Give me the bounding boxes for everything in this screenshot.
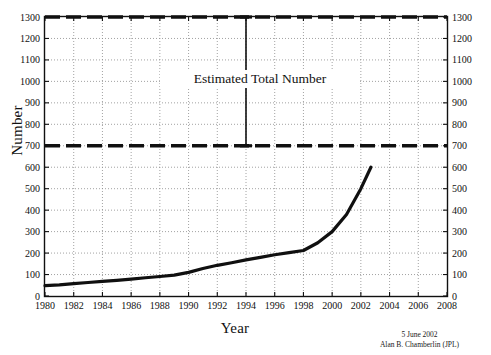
- x-tick-label: 1992: [207, 300, 227, 311]
- y-tick-label-left: 900: [25, 97, 40, 108]
- x-tick-label: 1984: [92, 300, 112, 311]
- y-tick-label-left: 200: [25, 248, 40, 259]
- x-tick-label: 1990: [179, 300, 199, 311]
- x-axis-title: Year: [190, 320, 280, 337]
- x-tick-label: 1996: [265, 300, 285, 311]
- y-tick-label-left: 1200: [20, 33, 40, 44]
- y-tick-label-right: 1100: [452, 54, 472, 65]
- x-tick-label: 2004: [380, 300, 400, 311]
- y-tick-label-left: 800: [25, 119, 40, 130]
- y-axis-tick-labels-right: 0100200300400500600700800900100011001200…: [452, 12, 472, 302]
- y-tick-label-right: 400: [452, 205, 467, 216]
- y-tick-label-left: 700: [25, 140, 40, 151]
- x-tick-label: 1986: [121, 300, 141, 311]
- y-tick-label-right: 900: [452, 97, 467, 108]
- x-tick-label: 1980: [35, 300, 55, 311]
- x-tick-label: 1982: [64, 300, 84, 311]
- chart-plot-svg: 0100200300400500600700800900100011001200…: [0, 0, 491, 355]
- x-tick-label: 2006: [408, 300, 428, 311]
- y-tick-label-right: 300: [452, 226, 467, 237]
- series-line: [45, 167, 371, 285]
- y-tick-label-right: 1000: [452, 76, 472, 87]
- estimated-total-number-label: Estimated Total Number: [160, 70, 360, 88]
- y-tick-label-right: 100: [452, 269, 467, 280]
- y-tick-label-left: 1300: [20, 12, 40, 23]
- y-tick-label-right: 1300: [452, 12, 472, 23]
- chart-figure: 0100200300400500600700800900100011001200…: [0, 0, 491, 355]
- credit-date: 5 June 2002: [352, 330, 487, 340]
- y-tick-label-right: 200: [452, 248, 467, 259]
- data-series: [45, 167, 371, 285]
- x-tick-label: 1998: [293, 300, 313, 311]
- y-axis-title: Number: [9, 86, 26, 176]
- x-axis-tick-labels: 1980198219841986198819901992199419961998…: [35, 300, 457, 311]
- x-tick-label: 1988: [150, 300, 170, 311]
- x-tick-label: 1994: [236, 300, 256, 311]
- y-tick-label-right: 600: [452, 162, 467, 173]
- credit-block: 5 June 2002 Alan B. Chamberlin (JPL): [352, 330, 487, 349]
- x-tick-label: 2002: [351, 300, 371, 311]
- y-tick-label-left: 100: [25, 269, 40, 280]
- x-tick-label: 2000: [322, 300, 342, 311]
- y-tick-label-right: 700: [452, 140, 467, 151]
- y-tick-label-right: 500: [452, 183, 467, 194]
- y-tick-label-right: 1200: [452, 33, 472, 44]
- credit-author: Alan B. Chamberlin (JPL): [352, 340, 487, 350]
- y-tick-label-left: 600: [25, 162, 40, 173]
- y-tick-label-left: 500: [25, 183, 40, 194]
- y-tick-label-left: 400: [25, 205, 40, 216]
- x-tick-label: 2008: [437, 300, 457, 311]
- y-tick-label-left: 1100: [20, 54, 40, 65]
- y-tick-label-left: 300: [25, 226, 40, 237]
- y-tick-label-right: 800: [452, 119, 467, 130]
